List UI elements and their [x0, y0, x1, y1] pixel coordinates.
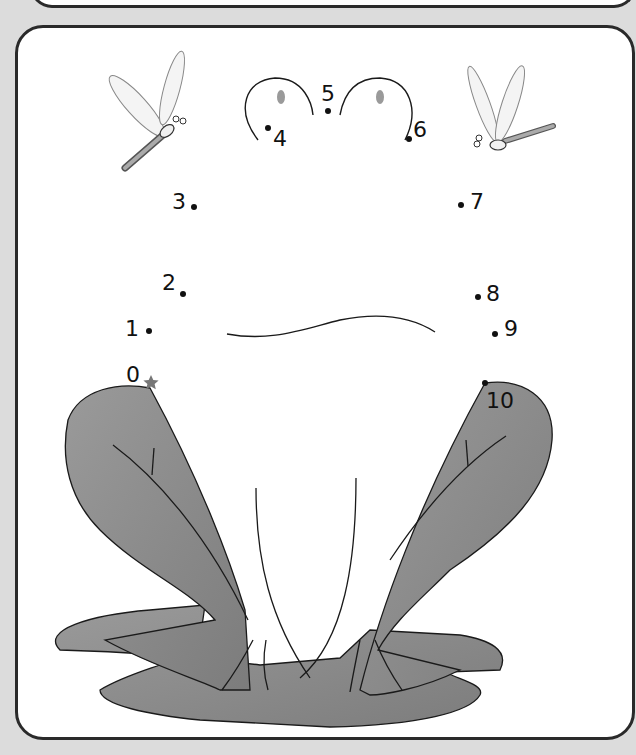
dot-7	[458, 202, 464, 208]
right-eye-pupil	[376, 90, 384, 104]
dot-label-3: 3	[172, 191, 186, 213]
left-eye-pupil	[277, 90, 285, 104]
dot-label-0: 0	[126, 364, 140, 386]
dot-10	[482, 380, 488, 386]
dot-4	[265, 125, 271, 131]
dot-label-6: 6	[413, 119, 427, 141]
dot-label-10: 10	[486, 390, 514, 412]
dot-label-4: 4	[273, 128, 287, 150]
dot-2	[180, 291, 186, 297]
dot-9	[492, 331, 498, 337]
dot-5	[325, 108, 331, 114]
dot-label-1: 1	[125, 318, 139, 340]
dot-label-9: 9	[504, 318, 518, 340]
frog-mouth	[227, 316, 435, 337]
dragonfly-right	[463, 63, 553, 150]
dot-8	[475, 294, 481, 300]
dot-label-7: 7	[470, 191, 484, 213]
dot-label-2: 2	[162, 272, 176, 294]
dots	[146, 108, 498, 386]
dot-1	[146, 328, 152, 334]
dot-3	[191, 204, 197, 210]
dot-label-5: 5	[321, 83, 335, 105]
dot-label-8: 8	[486, 283, 500, 305]
dot-6	[406, 136, 412, 142]
dragonfly-left	[103, 49, 190, 168]
